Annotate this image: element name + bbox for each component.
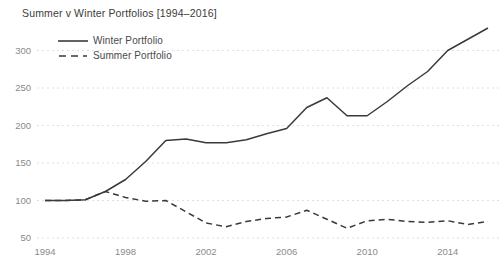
legend-swatch-dashed-icon: [58, 51, 88, 61]
legend-label-summer: Summer Portfolio: [93, 50, 172, 61]
gridlines: [37, 51, 500, 239]
x-axis-tick-labels: 199419982002200620102014: [34, 246, 458, 257]
x-tick-label: 1998: [115, 246, 136, 257]
x-tick-label: 2014: [437, 246, 458, 257]
y-axis-tick-labels: 50100150200250300: [15, 45, 31, 244]
legend-item-summer: Summer Portfolio: [58, 48, 172, 63]
x-tick-label: 2002: [196, 246, 217, 257]
y-tick-label: 50: [20, 232, 31, 243]
x-tick-label: 1994: [34, 246, 55, 257]
chart-legend: Winter Portfolio Summer Portfolio: [58, 33, 172, 63]
y-tick-label: 200: [15, 120, 31, 131]
chart-container: Summer v Winter Portfolios [1994–2016] 5…: [0, 0, 500, 269]
y-tick-label: 300: [15, 45, 31, 56]
y-tick-label: 250: [15, 82, 31, 93]
legend-label-winter: Winter Portfolio: [93, 35, 163, 46]
x-tick-label: 2006: [276, 246, 297, 257]
summer-portfolio-line: [45, 192, 488, 229]
y-tick-label: 150: [15, 157, 31, 168]
legend-swatch-solid-icon: [58, 36, 88, 46]
legend-item-winter: Winter Portfolio: [58, 33, 172, 48]
y-tick-label: 100: [15, 195, 31, 206]
x-tick-label: 2010: [357, 246, 378, 257]
